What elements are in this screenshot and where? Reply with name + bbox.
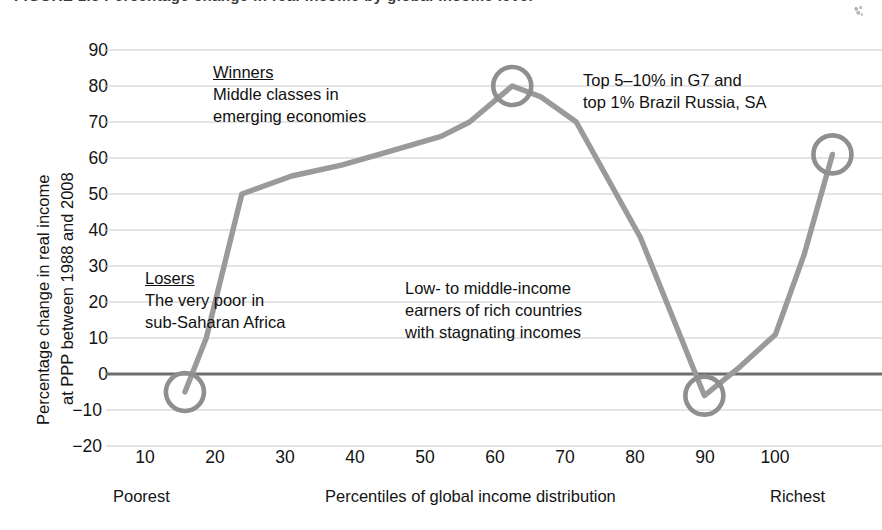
x-tick-20: 20 (192, 449, 238, 467)
figure-caption-text: FIGURE 1.3 Percentage change in real inc… (14, 0, 533, 4)
annotation-top-incomes: Top 5–10% in G7 and top 1% Brazil Russia… (583, 70, 766, 114)
x-axis-title: Percentiles of global income distributio… (325, 487, 616, 506)
annotation-losers: Losers The very poor in sub-Saharan Afri… (145, 268, 285, 334)
annotation-top-incomes-line1: Top 5–10% in G7 and (583, 71, 742, 89)
x-tick-50: 50 (402, 449, 448, 467)
y-tick-neg10: −10 (56, 402, 102, 420)
x-tick-10: 10 (122, 449, 168, 467)
y-tick-70: 70 (62, 114, 108, 132)
y-tick-50: 50 (62, 186, 108, 204)
annotation-low-middle-line3: with stagnating incomes (405, 323, 581, 341)
annotation-winners-heading: Winners (213, 62, 274, 84)
y-tick-60: 60 (62, 150, 108, 168)
annotation-losers-heading: Losers (145, 268, 195, 290)
figure-caption-clipped: FIGURE 1.3 Percentage change in real inc… (0, 0, 882, 13)
annotation-top-incomes-line2: top 1% Brazil Russia, SA (583, 93, 766, 111)
y-tick-80: 80 (62, 78, 108, 96)
scan-artifact-speck (852, 4, 866, 18)
x-tick-60: 60 (472, 449, 518, 467)
x-tick-90: 90 (682, 449, 728, 467)
figure-canvas: FIGURE 1.3 Percentage change in real inc… (0, 0, 882, 530)
x-tick-70: 70 (542, 449, 588, 467)
annotation-winners: Winners Middle classes in emerging econo… (213, 62, 366, 128)
annotation-losers-line2: sub-Saharan Africa (145, 313, 285, 331)
annotation-low-middle-income: Low- to middle-income earners of rich co… (405, 278, 582, 344)
y-tick-20: 20 (62, 294, 108, 312)
x-tick-100: 100 (752, 449, 798, 467)
annotation-losers-line1: The very poor in (145, 291, 264, 309)
annotation-winners-line1: Middle classes in (213, 85, 339, 103)
y-tick-30: 30 (62, 258, 108, 276)
x-axis-end-label-richest: Richest (770, 487, 825, 506)
y-axis-title-line1: Percentage change in real income (34, 175, 53, 425)
data-line (185, 86, 833, 396)
annotation-low-middle-line1: Low- to middle-income (405, 279, 571, 297)
y-tick-90: 90 (62, 42, 108, 60)
annotation-winners-line2: emerging economies (213, 107, 366, 125)
y-tick-0: 0 (62, 366, 108, 384)
y-tick-10: 10 (62, 330, 108, 348)
x-axis-end-label-poorest: Poorest (113, 487, 170, 506)
x-tick-30: 30 (262, 449, 308, 467)
annotation-low-middle-line2: earners of rich countries (405, 301, 582, 319)
y-tick-neg20: −20 (56, 438, 102, 456)
x-tick-40: 40 (332, 449, 378, 467)
x-tick-80: 80 (612, 449, 658, 467)
y-tick-40: 40 (62, 222, 108, 240)
